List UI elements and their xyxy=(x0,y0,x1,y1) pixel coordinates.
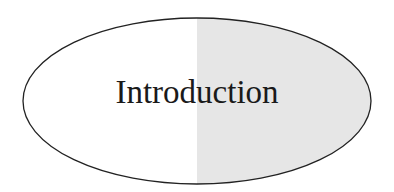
diagram-title: Introduction xyxy=(0,74,394,111)
